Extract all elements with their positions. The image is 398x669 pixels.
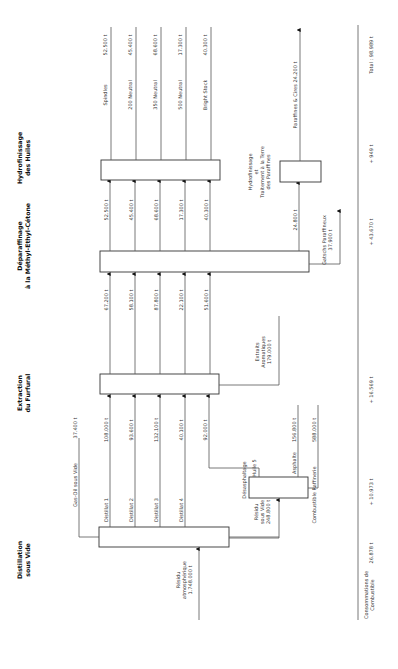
hydrofinissage-unit xyxy=(101,160,220,180)
hydrofinissage-paraffines-label: Hydrofinissage et Traitement à la Terre … xyxy=(247,146,271,199)
feed-label: Résidu atmosphérique 1.748.000 t xyxy=(175,561,193,599)
gatsch-value: 24.800 t xyxy=(292,209,298,230)
stage-header-distillation: Distillation sous Vide xyxy=(16,541,31,579)
svg-text:Combustible: Combustible xyxy=(369,579,375,610)
svg-text:350 Neutral: 350 Neutral xyxy=(152,80,158,110)
svg-text:200 Neutral: 200 Neutral xyxy=(127,80,133,110)
total-value: Total : 98.989 t xyxy=(368,36,374,75)
svg-text:+ 16.569 t: + 16.569 t xyxy=(368,377,374,404)
svg-text:Distillat 3: Distillat 3 xyxy=(153,498,159,522)
svg-text:52.500 t: 52.500 t xyxy=(102,34,108,55)
extraits-label: Extraits Aromatiques 179.000 t xyxy=(254,336,272,368)
svg-text:Hydrofinissage: Hydrofinissage xyxy=(16,132,24,184)
svg-text:92.000 t: 92.000 t xyxy=(202,419,208,440)
extraction-unit xyxy=(100,374,219,394)
asphalte-label: Asphalte xyxy=(291,452,298,474)
svg-text:68.600 t: 68.600 t xyxy=(152,34,158,55)
consommations-values: 26.878 t + 10.973 t + 16.569 t + 43.670 … xyxy=(368,36,374,563)
svg-text:26.878 t: 26.878 t xyxy=(368,542,374,563)
product-labels: Spindles 200 Neutral 350 Neutral 500 Neu… xyxy=(102,34,209,110)
product-lines xyxy=(111,27,211,160)
gasoil-line xyxy=(79,438,99,537)
svg-text:68.600 t: 68.600 t xyxy=(153,199,159,220)
svg-text:51.600 t: 51.600 t xyxy=(203,289,209,310)
gasoil-value: 37.400 t xyxy=(72,417,78,438)
stage-header-extraction: Extraction du Furfural xyxy=(16,374,31,413)
desasphaltage-label: Désasphaltage xyxy=(241,461,248,498)
svg-text:248.800 t: 248.800 t xyxy=(265,500,271,524)
svg-text:Distillation: Distillation xyxy=(16,541,23,579)
svg-text:45.400 t: 45.400 t xyxy=(127,34,133,55)
svg-text:40.300 t: 40.300 t xyxy=(203,199,209,220)
svg-text:179.000 t: 179.000 t xyxy=(266,340,272,364)
svg-text:87.800 t: 87.800 t xyxy=(153,289,159,310)
svg-text:sous Vide: sous Vide xyxy=(24,543,31,577)
svg-text:58.100 t: 58.100 t xyxy=(128,289,134,310)
stage-header-hydrofinissage: Hydrofinissage des Huiles xyxy=(16,132,31,184)
paraffines-label: Paraffines & Cires 24.200 t xyxy=(292,62,298,129)
svg-text:des Huiles: des Huiles xyxy=(24,140,31,176)
svg-text:Extraction: Extraction xyxy=(16,375,23,411)
svg-text:22.100 t: 22.100 t xyxy=(178,289,184,310)
svg-text:+ 949 t: + 949 t xyxy=(368,145,374,164)
distillation-unit xyxy=(99,527,229,547)
svg-text:1.748.000 t: 1.748.000 t xyxy=(187,565,193,594)
svg-text:52.500 t: 52.500 t xyxy=(103,199,109,220)
deparaffined-oil-values: 52.500 t 45.400 t 68.600 t 17.300 t 40.3… xyxy=(103,199,209,220)
svg-text:Distillat 1: Distillat 1 xyxy=(103,498,109,522)
svg-text:37.900 t: 37.900 t xyxy=(327,229,333,250)
svg-text:des Paraffines: des Paraffines xyxy=(265,154,271,189)
paraffines-unit xyxy=(280,161,321,182)
svg-text:132.100 t: 132.100 t xyxy=(153,418,159,442)
raffinat-values: 67.200 t 58.100 t 87.800 t 22.100 t 51.6… xyxy=(103,289,209,310)
raffinat-lines xyxy=(110,274,210,374)
svg-text:+ 43.670 t: + 43.670 t xyxy=(368,219,374,246)
huile5-label: Huile 5 xyxy=(251,459,257,477)
svg-text:500 Neutral: 500 Neutral xyxy=(177,80,183,110)
svg-text:17.300 t: 17.300 t xyxy=(177,34,183,55)
svg-text:à la Méthyl-Ethyl-Cétone: à la Méthyl-Ethyl-Cétone xyxy=(24,203,32,289)
gasoil-label: Gas-Oil sous Vide xyxy=(72,463,78,507)
svg-text:17.300 t: 17.300 t xyxy=(178,199,184,220)
combustible-label: Combustible Raffinerie xyxy=(311,467,317,524)
svg-text:67.200 t: 67.200 t xyxy=(103,289,109,310)
svg-text:Spindles: Spindles xyxy=(102,84,109,106)
svg-text:45.400 t: 45.400 t xyxy=(128,199,134,220)
deparaffinage-unit xyxy=(100,251,309,272)
distillate-labels: Distillat 1 Distillat 2 Distillat 3 Dist… xyxy=(103,418,208,522)
combustible-value: 588.000 t xyxy=(311,418,317,442)
svg-text:108.000 t: 108.000 t xyxy=(103,418,109,442)
stage-header-deparaffinage: Déparaffinage à la Méthyl-Ethyl-Cétone xyxy=(16,203,32,289)
consommations-label: Consommations de Combustible xyxy=(363,571,375,619)
svg-text:93.600 t: 93.600 t xyxy=(128,419,134,440)
desasphaltage-unit xyxy=(249,477,308,498)
svg-text:du Furfural: du Furfural xyxy=(24,374,31,413)
residu-vide-label: Résidu sous Vide 248.800 t xyxy=(253,500,271,524)
svg-text:Distillat 2: Distillat 2 xyxy=(128,498,134,522)
svg-text:Bright Stock: Bright Stock xyxy=(202,80,209,111)
svg-text:Distillat 4: Distillat 4 xyxy=(178,498,184,522)
asphalte-value: 156.800 t xyxy=(291,418,297,442)
svg-text:+ 10.973 t: + 10.973 t xyxy=(368,479,374,506)
process-flow-diagram: Distillation sous Vide Extraction du Fur… xyxy=(0,0,398,669)
svg-text:40.300 t: 40.300 t xyxy=(202,34,208,55)
svg-text:Déparaffinage: Déparaffinage xyxy=(16,221,24,270)
gatsch-paraffineux-label: Gatschs Paraffineux 37.900 t xyxy=(321,215,333,265)
svg-text:40.100 t: 40.100 t xyxy=(178,419,184,440)
deparaffined-oil-lines xyxy=(110,181,210,251)
